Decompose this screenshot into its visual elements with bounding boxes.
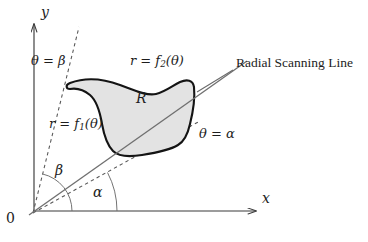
- beta-angle-label: β: [55, 163, 63, 177]
- outer-curve-label: r = f2(θ): [130, 54, 184, 69]
- x-axis-label: x: [262, 191, 270, 205]
- polar-region-figure: y x 0 θ = β θ = α r = f2(θ) r = f1(θ) R …: [0, 0, 368, 242]
- outer-curve-label-tail: (θ): [166, 53, 184, 68]
- theta-equals-beta-label: θ = β: [31, 54, 66, 67]
- theta-equals-alpha-label: θ = α: [199, 127, 235, 140]
- inner-curve-label-head: r = f: [49, 116, 79, 131]
- radial-scanning-line-label: Radial Scanning Line: [236, 56, 353, 70]
- outer-curve-label-head: r = f: [130, 53, 160, 68]
- origin-label: 0: [6, 211, 15, 225]
- y-axis-label: y: [41, 5, 49, 19]
- alpha-angle-arc: [108, 173, 118, 212]
- inner-curve-label-tail: (θ): [85, 116, 103, 131]
- radial-scanning-leader-line: [197, 70, 233, 92]
- alpha-angle-label: α: [93, 185, 102, 199]
- region-label: R: [136, 91, 147, 105]
- inner-curve-label: r = f1(θ): [49, 117, 103, 132]
